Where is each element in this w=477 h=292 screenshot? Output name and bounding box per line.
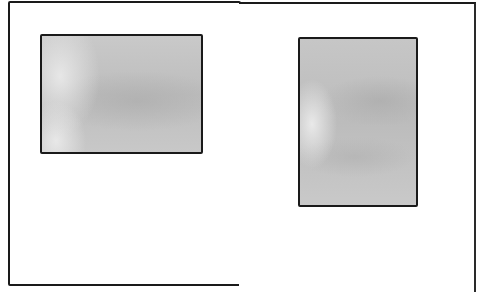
right-portrait-shaded-block [298,37,418,207]
left-landscape-shaded-block [40,34,203,154]
